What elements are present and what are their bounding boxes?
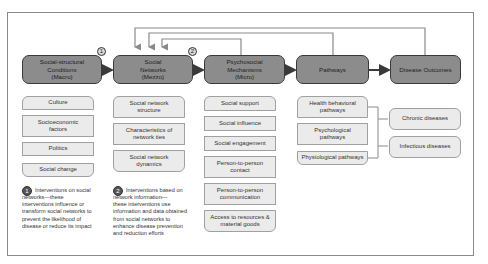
marker-2: 2 xyxy=(188,47,197,56)
note-2-body: network information— these interventions… xyxy=(113,194,193,237)
macro-item: Politics xyxy=(22,142,94,156)
micro-item: Person-to-person contact xyxy=(204,156,276,178)
macro-item: Social change xyxy=(22,163,94,177)
header-disease-outcomes: Disease Outcomes xyxy=(390,55,461,84)
macro-item: Culture xyxy=(22,96,94,110)
micro-item: Social influence xyxy=(204,116,276,131)
header-macro: Social-structural Conditions (Macro) xyxy=(22,55,102,84)
mezzo-item: Characteristics of network ties xyxy=(113,123,185,145)
macro-item: Socioeconomic factors xyxy=(22,115,94,137)
outcome-infectious: Infectious diseases xyxy=(389,136,461,158)
mezzo-item: Social network dynamics xyxy=(113,150,185,172)
micro-item: Social support xyxy=(204,96,276,111)
note-2-first-line: Interventions based on xyxy=(126,187,183,193)
outcome-chronic: Chronic diseases xyxy=(389,108,461,130)
pathway-item: Psychological pathways xyxy=(297,123,368,145)
header-pathways: Pathways xyxy=(296,55,369,84)
marker-1: 1 xyxy=(97,47,106,56)
note-2: 2Interventions based on network informat… xyxy=(113,186,193,237)
note-1-first-line: Interventions on social xyxy=(35,187,91,193)
micro-item: Person-to-person communication xyxy=(204,183,276,205)
pathway-item: Health behavioral pathways xyxy=(297,96,368,118)
note-1: 1Interventions on social networks—these … xyxy=(22,186,97,230)
header-micro: Psychosocial Mechanisms (Micro) xyxy=(204,55,285,84)
micro-item: Social engagement xyxy=(204,136,276,151)
pathway-item: Physiological pathways xyxy=(297,151,368,165)
note-1-body: networks—these interventions influence o… xyxy=(22,194,97,230)
header-mezzo: Social Networks (Mezzo) xyxy=(113,55,193,84)
mezzo-item: Social network structure xyxy=(113,96,185,118)
micro-item: Access to resources & material goods xyxy=(204,210,276,232)
